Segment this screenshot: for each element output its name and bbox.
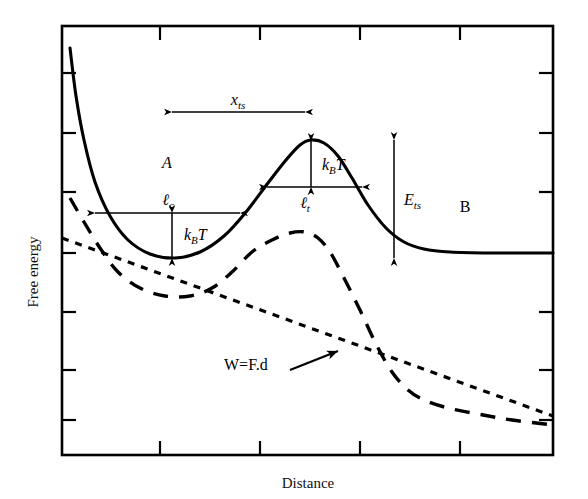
label-kbt-well: kBT	[184, 226, 208, 246]
figure-canvas: xts A B ℓc ℓt kBT kBT Ets W=F.d Free ene…	[0, 0, 588, 499]
axis-ticks-right	[539, 73, 553, 420]
label-l-c: ℓc	[162, 191, 174, 211]
x-axis-label: Distance	[282, 475, 335, 491]
label-state-b: B	[460, 198, 471, 215]
y-axis-label: Free energy	[25, 236, 41, 307]
axis-ticks-left	[62, 73, 76, 420]
label-e-ts: Ets	[403, 191, 421, 211]
label-l-t: ℓt	[300, 194, 311, 214]
plot-frame	[62, 26, 553, 455]
label-state-a: A	[161, 154, 172, 171]
axis-ticks-bottom	[160, 441, 460, 455]
label-x-ts: xts	[230, 91, 245, 111]
curve-tilted-landscape	[70, 198, 553, 425]
free-energy-landscape-figure: xts A B ℓc ℓt kBT kBT Ets W=F.d Free ene…	[0, 0, 588, 499]
curve-work-line	[62, 238, 553, 416]
axis-ticks-top	[160, 26, 460, 40]
arrow-work-pointer	[290, 351, 338, 370]
label-kbt-barrier: kBT	[322, 156, 346, 176]
label-work: W=F.d	[224, 356, 268, 373]
